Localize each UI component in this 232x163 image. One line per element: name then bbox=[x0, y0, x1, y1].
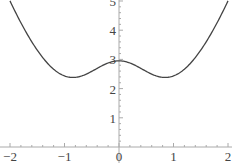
y-axis bbox=[119, 0, 123, 163]
y-tick-label: 3 bbox=[110, 52, 117, 67]
x-tick-label: −1 bbox=[58, 149, 72, 163]
x-tick-label: 1 bbox=[170, 149, 177, 163]
x-tick-labels: −2−1012 bbox=[3, 149, 231, 163]
y-tick-label: 2 bbox=[110, 82, 117, 97]
x-axis bbox=[0, 143, 232, 147]
x-tick-label: 2 bbox=[225, 149, 232, 163]
x-tick-label: 0 bbox=[116, 149, 123, 163]
y-tick-label: 1 bbox=[110, 111, 117, 126]
y-tick-labels: 12345 bbox=[110, 0, 117, 126]
y-tick-label: 5 bbox=[110, 0, 117, 9]
x-tick-label: −2 bbox=[3, 149, 17, 163]
line-chart: −2−1012 12345 bbox=[0, 0, 232, 163]
y-tick-label: 4 bbox=[110, 23, 117, 38]
